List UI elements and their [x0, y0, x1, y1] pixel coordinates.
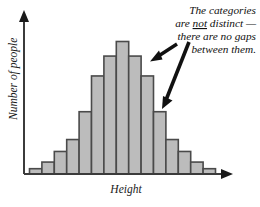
x-axis-arrow-icon — [221, 169, 233, 179]
histogram-bar — [166, 140, 178, 174]
histogram-bar — [42, 162, 54, 174]
histogram-bar — [104, 56, 116, 174]
y-axis-arrow-icon — [19, 10, 29, 22]
annotation-pointer-upper — [150, 44, 177, 62]
y-axis-label: Number of people — [7, 38, 20, 121]
bars-group — [30, 42, 216, 175]
y-axis — [19, 10, 29, 174]
annotation-line-1: The categories — [189, 4, 256, 16]
annotation-line-4: between them. — [191, 43, 256, 55]
histogram-bar — [129, 56, 141, 174]
annotation-line-2: are not distinct — — [175, 17, 257, 29]
pointer-upper-arrow-icon — [150, 51, 163, 62]
histogram-bar — [191, 162, 203, 174]
histogram-bar — [92, 76, 104, 174]
annotation-line-2-post: distinct — — [207, 17, 257, 29]
histogram-bar — [116, 42, 128, 175]
histogram-figure: Number of people Height The categories a… — [0, 0, 260, 207]
histogram-bar — [178, 151, 190, 174]
annotation-line-3: there are no gaps — [177, 30, 256, 42]
histogram-bar — [141, 76, 153, 174]
histogram-bar — [154, 112, 166, 174]
histogram-bar — [79, 112, 91, 174]
annotation-line-2-pre: are — [175, 17, 192, 29]
histogram-bar — [54, 151, 66, 174]
histogram-chart: Number of people Height The categories a… — [0, 0, 260, 207]
histogram-bar — [67, 140, 79, 174]
x-axis-label: Height — [109, 183, 142, 196]
annotation-emphasis-not: not — [193, 17, 208, 29]
